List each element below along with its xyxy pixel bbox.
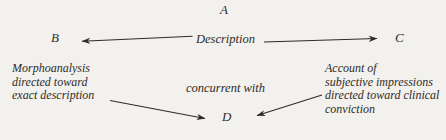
text-line: exact description [12,89,94,103]
arrow-morphoanalysis-to-d [110,101,205,119]
text-block-morphoanalysis: Morphoanalysis directed toward exact des… [12,62,94,103]
edge-label-description: Description [196,33,255,46]
arrow-description-to-c [264,39,377,42]
diagram-canvas: A B C D Description concurrent with Morp… [0,0,446,140]
text-line: subjective impressions [325,76,439,90]
text-line: Account of [325,62,439,76]
text-block-account-of-subjective-impressions: Account of subjective impressions direct… [325,62,439,116]
text-line: directed toward clinical [325,89,439,103]
node-label-c: C [395,31,404,44]
node-label-b: B [51,31,59,44]
text-line: Morphoanalysis [12,62,94,76]
edge-label-concurrent-with: concurrent with [186,82,265,95]
arrow-description-to-b [82,36,193,41]
text-line: directed toward [12,76,94,90]
text-line: conviction [325,103,439,117]
node-label-a: A [220,3,228,16]
node-label-d: D [222,110,231,123]
arrow-account-to-d [257,95,322,116]
